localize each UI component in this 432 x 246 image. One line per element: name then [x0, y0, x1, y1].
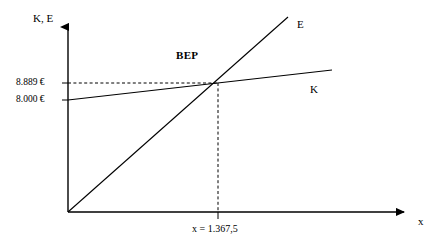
series-label-e: E: [297, 19, 304, 30]
bep-annotation-label: BEP: [176, 50, 198, 61]
y-tick-label-high: 8.889 €: [16, 78, 45, 88]
chart-canvas: [0, 0, 432, 246]
x-tick-label-bep: x = 1.367,5: [192, 224, 238, 234]
y-axis-title: K, E: [33, 13, 53, 24]
x-axis-title: x: [418, 216, 424, 227]
series-line-e: [68, 17, 288, 212]
series-label-k: K: [310, 84, 318, 95]
y-tick-label-low: 8.000 €: [16, 95, 45, 105]
break-even-chart: K, E x 8.889 € 8.000 € E K BEP x = 1.367…: [0, 0, 432, 246]
